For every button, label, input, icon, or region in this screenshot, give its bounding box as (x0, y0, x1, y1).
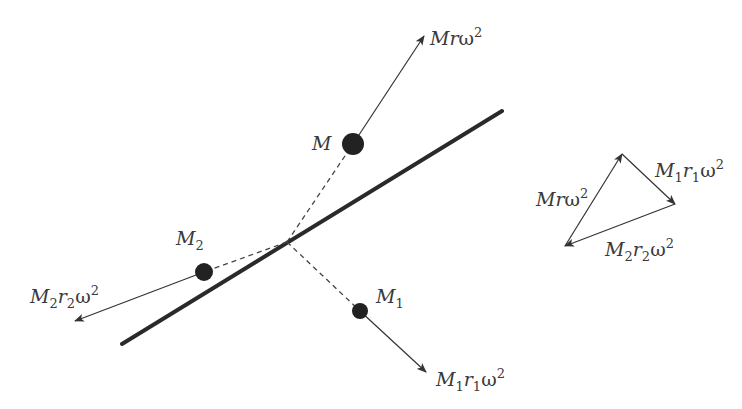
force-arrow-M1 (360, 311, 426, 372)
force-arrow-M (353, 36, 424, 144)
polygon-label-Mrw2: Mrω2 (535, 186, 588, 210)
label-mass-M: M (311, 132, 332, 154)
radius-line-M1 (287, 242, 360, 311)
mass-M (342, 133, 364, 155)
radius-line-M (287, 144, 353, 242)
force-polygon: Mrω2 M1r1ω2 M2r2ω2 (535, 154, 724, 264)
mass-M2 (195, 263, 213, 281)
label-force-M1: M1r1ω2 (435, 366, 505, 394)
polygon-label-M2r2w2: M2r2ω2 (604, 236, 674, 264)
mass-M1 (352, 303, 368, 319)
label-mass-M1: M1 (375, 285, 404, 311)
polygon-label-M1r1w2: M1r1ω2 (654, 157, 724, 185)
label-mass-M2: M2 (175, 227, 204, 253)
label-force-M: Mrω2 (429, 25, 482, 49)
label-force-M2: M2r2ω2 (29, 283, 99, 311)
balancing-diagram: M M2 M1 Mrω2 M2r2ω2 M1r1ω2 Mrω2 M1r1ω2 M… (0, 0, 742, 409)
